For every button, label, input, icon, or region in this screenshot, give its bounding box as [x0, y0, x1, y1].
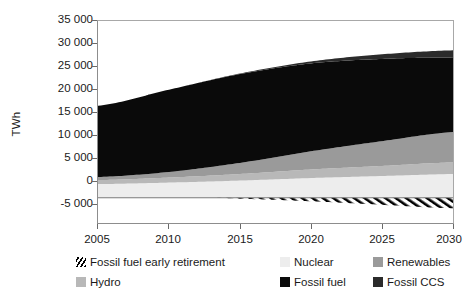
legend-item-fossil-ccs[interactable]: Fossil CCS — [373, 276, 445, 288]
legend-item-fossil-fuel-early-retirement[interactable]: Fossil fuel early retirement — [76, 256, 225, 268]
legend-item-nuclear[interactable]: Nuclear — [280, 256, 334, 268]
y-tick-label-15000: 15 000 — [33, 106, 93, 118]
legend-swatch-icon — [76, 277, 86, 287]
x-tick-mark — [168, 224, 169, 229]
x-tick-label-2030: 2030 — [419, 233, 475, 245]
x-tick-mark — [453, 224, 454, 229]
legend-label: Fossil CCS — [387, 276, 445, 288]
x-tick-mark — [382, 224, 383, 229]
x-tick-label-2010: 2010 — [138, 233, 198, 245]
legend-label: Fossil fuel early retirement — [90, 256, 225, 268]
legend-item-hydro[interactable]: Hydro — [76, 276, 121, 288]
y-tick-label-25000: 25 000 — [33, 60, 93, 72]
legend-swatch-icon — [280, 257, 290, 267]
legend-label: Nuclear — [294, 256, 334, 268]
y-axis-label: TWh — [10, 94, 22, 154]
legend-swatch-icon — [373, 257, 383, 267]
x-tick-mark — [97, 224, 98, 229]
x-tick-label-2025: 2025 — [352, 233, 412, 245]
legend-swatch-icon — [373, 277, 383, 287]
y-tick-label-35000: 35 000 — [33, 14, 93, 26]
area-series-fossil-fuel-early-retirement — [98, 198, 453, 209]
y-tick-label-5000: 5 000 — [33, 152, 93, 164]
stacked-area-chart: TWh 35 000 30 000 25 000 20 000 15 000 1… — [0, 0, 475, 306]
legend-label: Renewables — [387, 256, 450, 268]
x-tick-mark — [311, 224, 312, 229]
y-tick-label-20000: 20 000 — [33, 83, 93, 95]
legend-swatch-icon — [280, 277, 290, 287]
plot-area — [97, 20, 454, 224]
legend-swatch-hatch-icon — [76, 257, 86, 267]
y-tick-label--5000: -5 000 — [33, 198, 93, 210]
x-tick-label-2005: 2005 — [67, 233, 127, 245]
legend-item-fossil-fuel[interactable]: Fossil fuel — [280, 276, 346, 288]
x-tick-label-2015: 2015 — [210, 233, 270, 245]
legend-item-renewables[interactable]: Renewables — [373, 256, 450, 268]
y-tick-label-0: 0 — [33, 175, 93, 187]
area-series-group — [98, 50, 453, 208]
x-tick-mark — [240, 224, 241, 229]
y-tick-label-30000: 30 000 — [33, 37, 93, 49]
chart-legend: Fossil fuel early retirement Nuclear Ren… — [76, 256, 475, 302]
plot-svg — [98, 21, 453, 223]
legend-label: Fossil fuel — [294, 276, 346, 288]
y-tick-label-10000: 10 000 — [33, 129, 93, 141]
x-tick-label-2020: 2020 — [281, 233, 341, 245]
legend-label: Hydro — [90, 276, 121, 288]
